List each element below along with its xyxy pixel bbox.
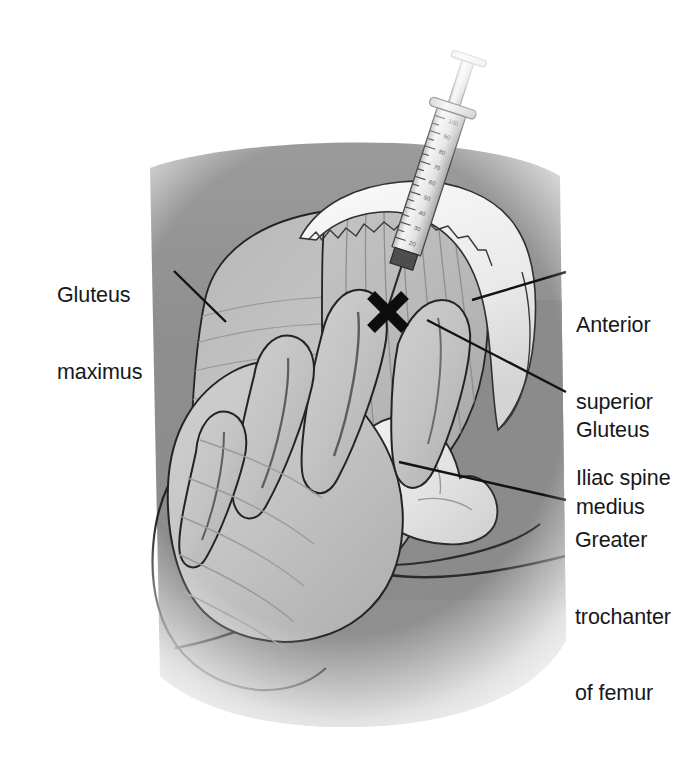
label-gluteus-maximus-line-1: Gluteus <box>57 283 142 309</box>
label-greater-trochanter-of-femur: Greater trochanter of femur <box>575 477 671 758</box>
label-gluteus-maximus: Gluteus maximus <box>57 232 142 436</box>
label-gluteus-medius-line-1: Gluteus <box>576 418 649 444</box>
label-greater-trochanter-line-2: trochanter <box>575 605 671 631</box>
label-asis-line-1: Anterior <box>576 313 671 339</box>
label-gluteus-maximus-line-2: maximus <box>57 360 142 386</box>
label-greater-trochanter-line-1: Greater <box>575 528 671 554</box>
illustration-figure: 100 90 80 70 60 50 40 30 20 <box>0 0 688 771</box>
label-greater-trochanter-line-3: of femur <box>575 681 671 707</box>
